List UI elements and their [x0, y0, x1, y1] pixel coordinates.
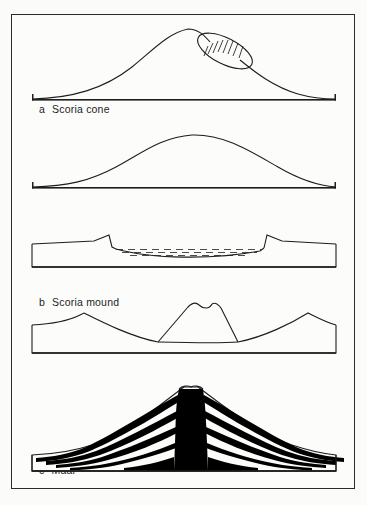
crater-ellipse — [192, 26, 257, 76]
maar-left-rim — [32, 235, 116, 249]
maar-diagram — [12, 211, 356, 285]
panel-a-label: aScoria cone — [39, 103, 110, 115]
figure-frame: aScoria cone bScoria mound — [11, 14, 355, 489]
panel-strato-volcano: eStrato-volcano — [12, 373, 356, 491]
ground-line — [32, 470, 336, 472]
outer-floor — [158, 342, 238, 343]
cone-left-flank — [32, 29, 210, 99]
panel-a-name: Scoria cone — [52, 103, 110, 115]
ground-block — [32, 325, 336, 353]
ground-line — [32, 352, 336, 354]
volcano-profiles-figure: aScoria cone bScoria mound — [0, 0, 367, 505]
inner-cone-left — [158, 303, 199, 342]
ground-line — [32, 266, 336, 268]
panel-nested-scoria-cone: dNested scoria cone — [12, 287, 356, 371]
inner-cone-right — [212, 303, 238, 342]
scoria-mound-diagram — [12, 121, 356, 207]
strato-volcano-diagram — [12, 373, 356, 491]
panel-a-letter: a — [39, 103, 45, 115]
inner-cone-notch — [199, 304, 212, 308]
panel-scoria-mound: bScoria mound — [12, 121, 356, 207]
panel-maar: Lake cMaar — [12, 211, 356, 285]
ground-line — [32, 94, 336, 101]
ground-line — [32, 182, 336, 189]
nested-scoria-cone-diagram — [12, 287, 356, 371]
panel-scoria-cone: aScoria cone — [12, 15, 356, 120]
cone-right-flank — [240, 60, 336, 99]
outer-ring-left — [32, 313, 158, 342]
maar-right-rim — [264, 235, 336, 248]
mound-profile — [32, 135, 336, 187]
outer-ring-right — [238, 313, 336, 342]
